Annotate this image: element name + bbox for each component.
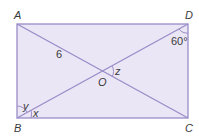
vertex-label-a: A	[13, 9, 21, 21]
angle-label-x: x	[32, 107, 39, 119]
angle-label-z: z	[114, 65, 121, 77]
segment-label-ao: 6	[56, 48, 62, 60]
vertex-label-c: C	[185, 122, 193, 134]
angle-label-d: 60°	[171, 35, 188, 47]
vertex-label-o: O	[98, 76, 107, 88]
vertex-label-d: D	[185, 9, 193, 21]
vertex-label-b: B	[14, 122, 21, 134]
diagram-canvas: A D B C O 6 60° z y x	[0, 0, 199, 139]
